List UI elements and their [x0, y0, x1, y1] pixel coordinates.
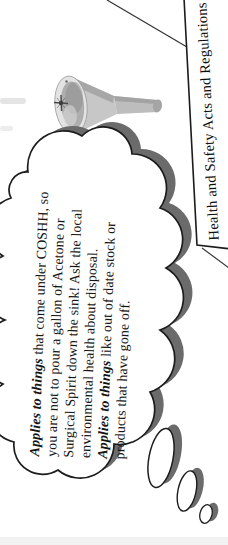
funnel-mouth-highlight: [63, 105, 77, 127]
thought-bubble-text: Applies to things that come under COSHH,…: [26, 138, 143, 460]
bubble-trail-ellipse-2: [174, 469, 200, 513]
funnel-rivet-top: [65, 80, 68, 83]
scanned-page: Applies to things that come under COSHH,…: [0, 0, 228, 545]
page-bottom-shade: [0, 537, 228, 545]
branch-line-upper: [107, 0, 187, 47]
branch-line-lower: [202, 248, 228, 268]
bubble-trail-ellipse-1: [143, 426, 178, 489]
scan-smudge-1: [0, 98, 26, 104]
scan-smudge-2: [0, 126, 13, 131]
bubble-line-6-rest: products that have gone off.: [112, 300, 133, 460]
